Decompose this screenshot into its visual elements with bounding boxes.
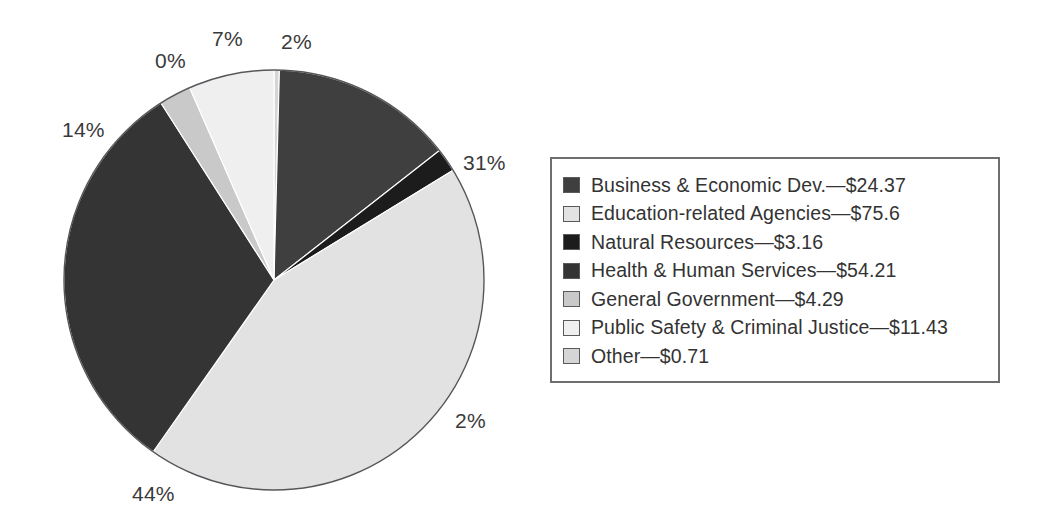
label-31pct: 31% <box>463 152 506 173</box>
legend-box: Business & Economic Dev.—$24.37Education… <box>550 157 1000 383</box>
label-14pct: 14% <box>62 119 105 140</box>
label-7pct: 7% <box>212 28 243 49</box>
legend-swatch-icon <box>563 320 580 336</box>
legend-item[interactable]: Natural Resources—$3.16 <box>563 228 992 257</box>
legend-swatch-icon <box>563 263 580 279</box>
pie-chart-svg <box>0 0 560 531</box>
label-44pct: 44% <box>132 483 175 504</box>
label-2pct-lower: 2% <box>455 410 486 431</box>
legend-item-label: Other—$0.71 <box>591 347 709 367</box>
label-2pct-top: 2% <box>281 31 312 52</box>
legend-swatch-icon <box>563 291 580 307</box>
legend-item[interactable]: Education-related Agencies—$75.6 <box>563 200 992 229</box>
legend-item[interactable]: Other—$0.71 <box>563 342 992 371</box>
pie-chart-area: 2%31%2%44%14%0%7% <box>0 0 560 531</box>
legend-list: Business & Economic Dev.—$24.37Education… <box>563 171 992 375</box>
legend-swatch-icon <box>563 206 580 222</box>
legend-item-label: Education-related Agencies—$75.6 <box>591 204 900 224</box>
legend-swatch-icon <box>563 348 580 364</box>
legend-item[interactable]: Business & Economic Dev.—$24.37 <box>563 171 992 200</box>
legend-item-label: Natural Resources—$3.16 <box>591 233 823 253</box>
legend-item-label: Business & Economic Dev.—$24.37 <box>591 176 906 196</box>
pie-chart-figure: 2%31%2%44%14%0%7% Business & Economic De… <box>0 0 1039 531</box>
legend-swatch-icon <box>563 177 580 193</box>
pie-slices-group <box>64 70 484 490</box>
label-0pct: 0% <box>155 50 186 71</box>
legend-item-label: Public Safety & Criminal Justice—$11.43 <box>591 318 948 338</box>
legend-item[interactable]: Public Safety & Criminal Justice—$11.43 <box>563 314 992 343</box>
legend-item[interactable]: General Government—$4.29 <box>563 285 992 314</box>
legend-item[interactable]: Health & Human Services—$54.21 <box>563 257 992 286</box>
legend-item-label: General Government—$4.29 <box>591 290 844 310</box>
legend-item-label: Health & Human Services—$54.21 <box>591 261 896 281</box>
legend-swatch-icon <box>563 234 580 250</box>
